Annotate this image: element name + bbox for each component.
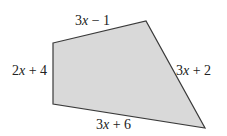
side-label-bottom: 3x + 6 [96,117,131,132]
side-label-right: 3x + 2 [176,63,211,78]
side-label-top: 3x − 1 [75,13,110,28]
side-label-left: 2x + 4 [12,63,47,78]
quadrilateral-diagram: 3x − 1 3x + 2 3x + 6 2x + 4 [0,0,227,136]
